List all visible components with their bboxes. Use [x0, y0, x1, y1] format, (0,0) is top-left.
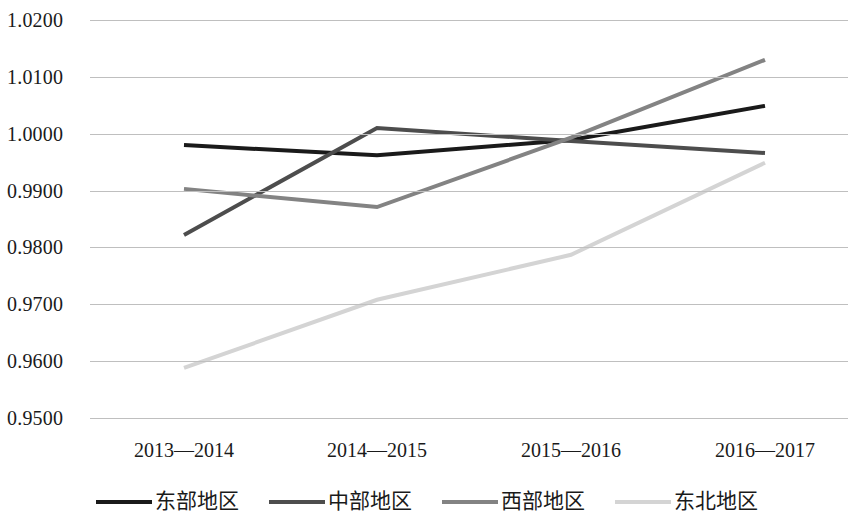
- chart-legend: 东部地区中部地区西部地区东北地区: [0, 486, 853, 517]
- y-axis-tick-label: 1.0200: [7, 10, 87, 30]
- x-axis-tick-label: 2015—2016: [521, 440, 621, 460]
- y-axis-tick-label: 0.9700: [7, 294, 87, 314]
- legend-color-swatch: [96, 500, 152, 504]
- legend-label: 西部地区: [501, 491, 585, 512]
- legend-item[interactable]: 东北地区: [615, 491, 758, 512]
- legend-item[interactable]: 东部地区: [96, 491, 239, 512]
- plot-area: [90, 20, 848, 418]
- y-axis-tick-label: 0.9900: [7, 181, 87, 201]
- x-axis-tick-label: 2014—2015: [327, 440, 427, 460]
- gridline: [90, 77, 848, 78]
- legend-label: 东部地区: [155, 491, 239, 512]
- gridline: [90, 134, 848, 135]
- gridline: [90, 418, 848, 419]
- y-axis-tick-label: 0.9800: [7, 237, 87, 257]
- x-axis-tick-label: 2013—2014: [134, 440, 234, 460]
- gridline: [90, 191, 848, 192]
- y-axis-tick-label: 1.0000: [7, 124, 87, 144]
- gridline: [90, 20, 848, 21]
- x-axis: 2013—20142014—20152015—20162016—2017: [90, 440, 848, 474]
- x-axis-tick-label: 2016—2017: [715, 440, 815, 460]
- gridline: [90, 304, 848, 305]
- legend-label: 东北地区: [674, 491, 758, 512]
- gridline: [90, 247, 848, 248]
- series-line: [184, 163, 765, 368]
- series-line: [184, 128, 765, 235]
- y-axis-tick-label: 1.0100: [7, 67, 87, 87]
- y-axis-tick-label: 0.9600: [7, 351, 87, 371]
- y-axis-tick-label: 0.9500: [7, 408, 87, 428]
- legend-color-swatch: [269, 500, 325, 504]
- line-chart: 1.02001.01001.00000.99000.98000.97000.96…: [0, 0, 853, 517]
- legend-color-swatch: [615, 500, 671, 504]
- series-container: [90, 20, 848, 418]
- gridline: [90, 361, 848, 362]
- y-axis: 1.02001.01001.00000.99000.98000.97000.96…: [5, 0, 87, 517]
- legend-item[interactable]: 西部地区: [442, 491, 585, 512]
- legend-item[interactable]: 中部地区: [269, 491, 412, 512]
- legend-label: 中部地区: [328, 491, 412, 512]
- legend-color-swatch: [442, 500, 498, 504]
